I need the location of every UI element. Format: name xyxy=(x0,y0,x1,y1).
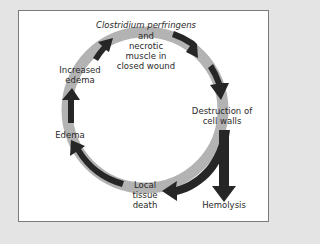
label-local: Local xyxy=(125,180,165,190)
arrow-local-death-to-edema xyxy=(70,140,124,187)
label-muscle-in: muscle in xyxy=(116,51,176,61)
label-destruction-line2: cell walls xyxy=(190,116,254,126)
label-increased: Increased xyxy=(56,65,104,75)
label-hemolysis: Hemolysis xyxy=(196,200,252,210)
label-clostridium: Clostridium perfringens xyxy=(96,20,196,30)
label-edema: Edema xyxy=(52,130,88,140)
label-necrotic: necrotic xyxy=(116,41,176,51)
label-destruction-line1: Destruction of xyxy=(190,106,254,116)
label-closed-wound: closed wound xyxy=(111,61,181,71)
label-and: and xyxy=(126,31,166,41)
label-tissue: tissue xyxy=(125,190,165,200)
label-death: death xyxy=(125,200,165,210)
label-increased-edema: edema xyxy=(56,75,104,85)
